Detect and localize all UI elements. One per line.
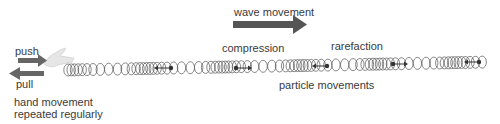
- particle-arrow-icon: [154, 66, 173, 71]
- particle-arrow-icon: [464, 60, 481, 65]
- spring-coil: [64, 56, 487, 76]
- rarefaction-label: rarefaction: [331, 40, 383, 52]
- push-label: push: [15, 45, 39, 57]
- repeated-regularly-label: repeated regularly: [14, 108, 103, 120]
- particle-arrow-icon: [312, 64, 329, 69]
- hand-movement-label: hand movement: [14, 96, 93, 108]
- wave-movement-label: wave movement: [234, 6, 314, 18]
- pull-label: pull: [16, 78, 33, 90]
- particle-movements-label: particle movements: [279, 79, 374, 91]
- compression-label: compression: [222, 42, 284, 54]
